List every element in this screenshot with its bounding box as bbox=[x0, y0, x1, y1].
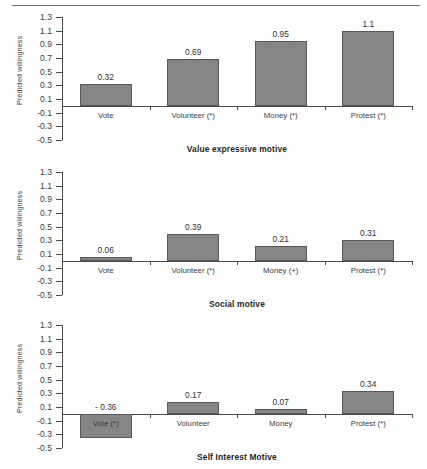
x-axis-tick bbox=[150, 106, 151, 110]
x-axis-category-label: Protest (*) bbox=[324, 112, 412, 120]
y-axis-tick-label: 0.3 bbox=[10, 236, 52, 245]
bar-value-label: - 0.36 bbox=[76, 403, 136, 411]
bar-value-label: 0.32 bbox=[76, 73, 136, 81]
y-axis-tick bbox=[56, 58, 62, 59]
x-axis-tick bbox=[412, 261, 413, 265]
y-axis-tick bbox=[56, 17, 62, 18]
panel-title: Value expressive motive bbox=[62, 144, 412, 154]
x-axis-category-label: Volunteer bbox=[149, 420, 237, 428]
y-axis-tick bbox=[56, 126, 62, 127]
bar bbox=[255, 41, 307, 106]
y-axis-tick bbox=[56, 281, 62, 282]
chart-panel-2: Predicted willingness1.31.10.90.70.50.30… bbox=[0, 316, 427, 469]
x-axis-category-label: Vote (*) bbox=[62, 420, 150, 428]
bar-value-label: 1.1 bbox=[338, 20, 398, 28]
x-axis-tick bbox=[237, 261, 238, 265]
x-axis-tick bbox=[325, 414, 326, 418]
bar bbox=[167, 402, 219, 414]
x-axis-tick bbox=[412, 106, 413, 110]
y-axis-tick-label: 0.5 bbox=[10, 376, 52, 385]
y-axis-tick bbox=[56, 44, 62, 45]
y-axis-tick bbox=[56, 448, 62, 449]
x-axis-tick bbox=[412, 414, 413, 418]
y-axis-tick bbox=[56, 393, 62, 394]
y-axis-tick bbox=[56, 227, 62, 228]
y-axis-tick-label: -0.5 bbox=[10, 444, 52, 453]
y-axis-tick-label: 0.7 bbox=[10, 362, 52, 371]
y-axis-line bbox=[62, 325, 63, 448]
chart-panel-0: Predicted willingness1.31.10.90.70.50.30… bbox=[0, 8, 427, 163]
y-axis-tick bbox=[56, 325, 62, 326]
x-axis-tick bbox=[325, 106, 326, 110]
y-axis-tick bbox=[56, 31, 62, 32]
bar-value-label: 0.34 bbox=[338, 380, 398, 388]
x-axis-tick bbox=[325, 261, 326, 265]
y-axis-tick bbox=[56, 407, 62, 408]
y-axis-tick-label: 0.1 bbox=[10, 403, 52, 412]
bar bbox=[167, 234, 219, 261]
top-divider-rule bbox=[12, 5, 420, 6]
bar bbox=[342, 240, 394, 261]
y-axis-tick bbox=[56, 213, 62, 214]
y-axis-tick bbox=[56, 85, 62, 86]
y-axis-tick bbox=[56, 199, 62, 200]
y-axis-tick bbox=[56, 434, 62, 435]
y-axis-tick bbox=[56, 254, 62, 255]
x-axis-category-label: Money bbox=[237, 420, 325, 428]
x-axis-category-label: Protest (*) bbox=[324, 420, 412, 428]
y-axis-tick bbox=[56, 186, 62, 187]
x-axis-category-label: Volunteer (*) bbox=[149, 112, 237, 120]
y-axis-tick-label: 0.7 bbox=[10, 209, 52, 218]
y-axis-tick-label: -0.1 bbox=[10, 264, 52, 273]
y-axis-tick-label: -0.3 bbox=[10, 430, 52, 439]
panel-title: Social motive bbox=[62, 299, 412, 309]
bar-value-label: 0.95 bbox=[251, 30, 311, 38]
y-axis-line bbox=[62, 172, 63, 295]
bar bbox=[342, 391, 394, 414]
bar-value-label: 0.39 bbox=[163, 223, 223, 231]
y-axis-tick-label: 0.5 bbox=[10, 223, 52, 232]
y-axis-tick-label: 1.3 bbox=[10, 321, 52, 330]
y-axis-tick-label: 0.3 bbox=[10, 81, 52, 90]
bar-value-label: 0.21 bbox=[251, 235, 311, 243]
x-axis-tick bbox=[237, 106, 238, 110]
figure-root: Predicted willingness1.31.10.90.70.50.30… bbox=[0, 0, 427, 469]
y-axis-tick-label: 0.9 bbox=[10, 195, 52, 204]
x-axis-category-label: Vote bbox=[62, 267, 150, 275]
x-axis-tick bbox=[237, 414, 238, 418]
x-axis-category-label: Protest (*) bbox=[324, 267, 412, 275]
y-axis-tick bbox=[56, 352, 62, 353]
panel-title: Self Interest Motive bbox=[62, 452, 412, 462]
bar bbox=[80, 257, 132, 261]
x-axis-category-label: Vote bbox=[62, 112, 150, 120]
bar bbox=[342, 31, 394, 106]
y-axis-tick-label: -0.1 bbox=[10, 417, 52, 426]
y-axis-tick bbox=[56, 140, 62, 141]
y-axis-tick bbox=[56, 72, 62, 73]
y-axis-tick-label: -0.5 bbox=[10, 291, 52, 300]
y-axis-tick bbox=[56, 339, 62, 340]
y-axis-tick bbox=[56, 240, 62, 241]
bar-value-label: 0.07 bbox=[251, 398, 311, 406]
y-axis-tick-label: 1.3 bbox=[10, 168, 52, 177]
bar bbox=[255, 246, 307, 260]
y-axis-line bbox=[62, 17, 63, 140]
y-axis-tick-label: -0.3 bbox=[10, 277, 52, 286]
y-axis-tick-label: 0.7 bbox=[10, 54, 52, 63]
x-axis-category-label: Money (+) bbox=[237, 267, 325, 275]
bar bbox=[255, 409, 307, 414]
x-axis-tick bbox=[150, 414, 151, 418]
y-axis-tick-label: 0.5 bbox=[10, 68, 52, 77]
y-axis-tick bbox=[56, 99, 62, 100]
y-axis-tick bbox=[56, 172, 62, 173]
bar bbox=[80, 84, 132, 106]
y-axis-tick bbox=[56, 295, 62, 296]
y-axis-tick-label: 1.1 bbox=[10, 182, 52, 191]
bar bbox=[167, 59, 219, 106]
y-axis-tick-label: -0.3 bbox=[10, 122, 52, 131]
chart-panel-1: Predicted willingness1.31.10.90.70.50.30… bbox=[0, 163, 427, 318]
y-axis-tick-label: -0.1 bbox=[10, 109, 52, 118]
y-axis-tick-label: 1.1 bbox=[10, 335, 52, 344]
bar-value-label: 0.69 bbox=[163, 48, 223, 56]
y-axis-tick-label: 1.3 bbox=[10, 13, 52, 22]
